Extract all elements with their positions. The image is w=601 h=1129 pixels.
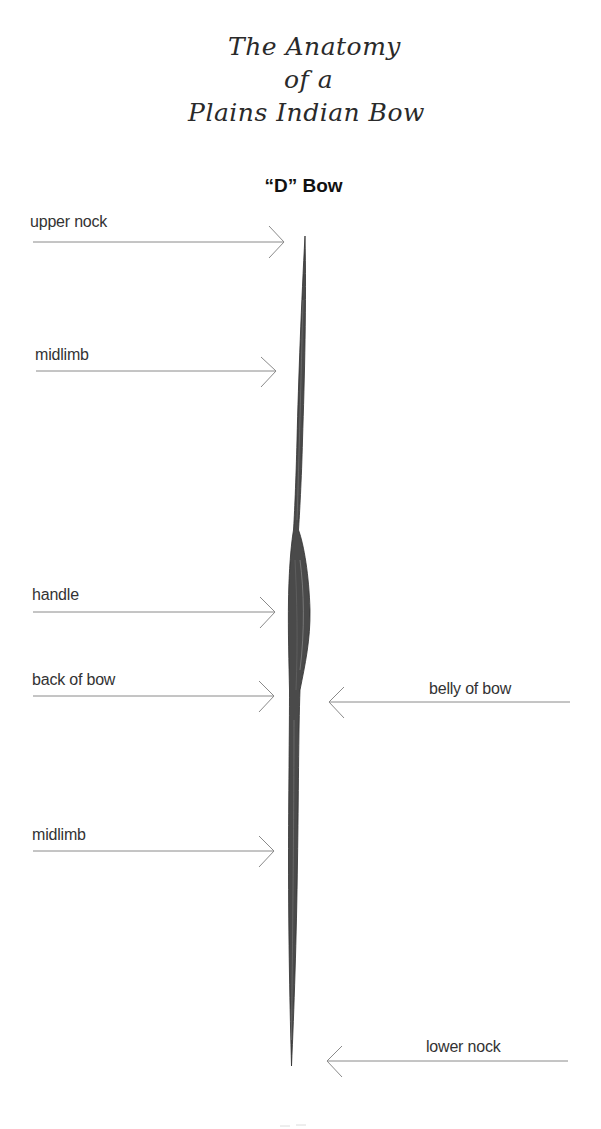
- bow-illustration: [288, 236, 310, 1066]
- arrow-handle: [33, 597, 275, 628]
- faint-marks: [280, 1125, 306, 1126]
- arrow-lower-nock: [327, 1046, 568, 1077]
- arrow-back-of-bow: [33, 681, 274, 712]
- bow-body: [288, 236, 310, 1066]
- arrow-midlimb-upper: [36, 357, 276, 387]
- bow-diagram: [0, 0, 601, 1129]
- arrow-belly-of-bow: [329, 687, 570, 718]
- arrow-upper-nock: [33, 226, 284, 258]
- arrow-midlimb-lower: [33, 836, 274, 867]
